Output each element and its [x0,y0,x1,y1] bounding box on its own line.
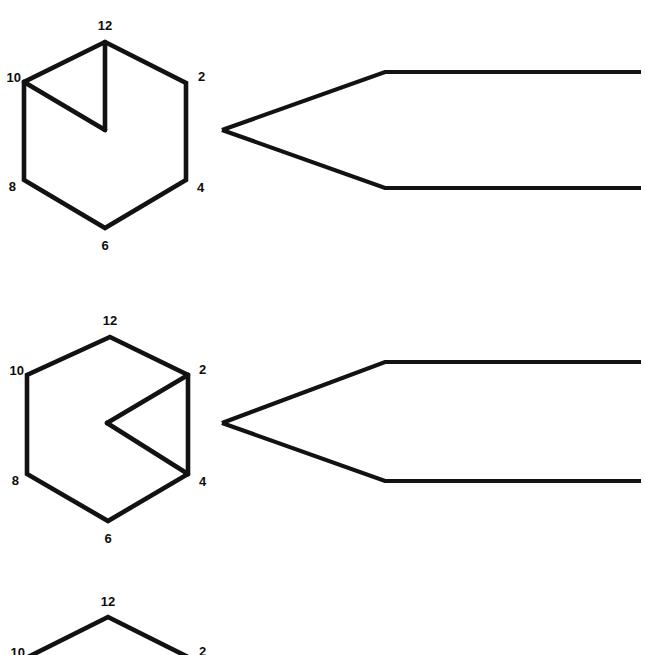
hour-label-2-row1: 2 [198,69,205,84]
hour-label-4-row2: 4 [199,474,207,489]
hour-label-8-row2: 8 [12,473,19,488]
angle-upper-ray-row1 [222,72,641,130]
hour-label-12-row3: 12 [101,594,115,609]
clock-hand-to-2-row2 [107,375,188,423]
angle-lower-ray-row1 [222,130,641,188]
angle-figure-1[interactable] [222,72,641,188]
worksheet-canvas: 12 2 4 6 8 10 12 2 4 [0,0,645,655]
angle-upper-ray-row2 [222,362,641,423]
row-1-group: 12 2 4 6 8 10 [7,18,641,253]
hexagon-clock-2[interactable]: 12 2 4 6 8 10 [10,313,207,546]
hour-label-12-row1: 12 [98,18,112,33]
hour-label-4-row1: 4 [197,180,205,195]
hexagon-outline-3 [28,617,188,655]
figures-svg: 12 2 4 6 8 10 12 2 4 [0,0,645,655]
hour-label-2-row2: 2 [199,362,206,377]
hexagon-outline-2 [27,337,188,521]
clock-hand-to-10-row1 [24,82,105,130]
hour-label-12-row2: 12 [103,313,117,328]
hexagon-clock-3[interactable]: 12 2 4 6 8 10 [11,594,207,655]
angle-lower-ray-row2 [222,423,641,481]
hour-label-6-row2: 6 [104,531,111,546]
hour-label-10-row3: 10 [11,645,25,655]
hour-label-10-row2: 10 [10,363,24,378]
clock-hand-to-4-row2 [107,423,188,474]
angle-figure-2[interactable] [222,362,641,481]
hexagon-clock-1[interactable]: 12 2 4 6 8 10 [7,18,206,253]
row-3-group: 12 2 4 6 8 10 [11,594,207,655]
hour-label-10-row1: 10 [7,70,21,85]
hour-label-8-row1: 8 [9,179,16,194]
hour-label-2-row3: 2 [199,644,206,655]
row-2-group: 12 2 4 6 8 10 [10,313,641,546]
hour-label-6-row1: 6 [101,238,108,253]
